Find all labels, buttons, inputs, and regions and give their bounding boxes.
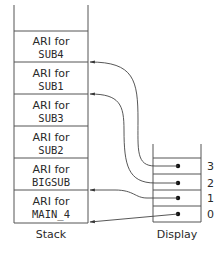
- frame-name: SUB1: [38, 80, 63, 92]
- stack-frame-sub3: ARI for SUB3: [32, 99, 70, 124]
- frame-label: ARI for: [32, 163, 70, 176]
- frame-label: ARI for: [32, 35, 70, 48]
- stack-frame-bigsub: ARI for BIGSUB: [32, 163, 70, 188]
- frame-label: ARI for: [32, 67, 70, 80]
- display-stack-diagram: ARI for SUB4 ARI for SUB1 ARI for SUB3 A…: [0, 0, 223, 257]
- stack-frame-sub1: ARI for SUB1: [32, 67, 70, 92]
- display-entry-3: 3: [176, 160, 214, 173]
- pointer-arrow-0-to-main4: [90, 214, 178, 222]
- frame-name: SUB4: [38, 48, 63, 60]
- display-label: Display: [157, 228, 198, 241]
- display-entry-2: 2: [176, 177, 214, 190]
- stack-label: Stack: [36, 228, 67, 241]
- display: 3 2 1 0 Display: [153, 144, 214, 241]
- stack-frame-sub2: ARI for SUB2: [32, 131, 70, 156]
- pointer-arrow-3-to-sub4: [90, 62, 178, 166]
- display-entry-1: 1: [176, 192, 214, 205]
- pointer-arrow-2-to-sub1: [90, 94, 178, 183]
- display-entry-0: 0: [176, 208, 214, 221]
- frame-label: ARI for: [32, 99, 70, 112]
- frame-name: MAIN_4: [32, 208, 70, 221]
- pointers: [90, 62, 178, 222]
- frame-name: BIGSUB: [32, 176, 70, 188]
- display-index: 1: [207, 192, 214, 205]
- frame-name: SUB3: [38, 112, 63, 124]
- frame-label: ARI for: [32, 195, 70, 208]
- display-index: 2: [207, 177, 214, 190]
- stack-frame-main4: ARI for MAIN_4: [32, 195, 70, 221]
- pointer-arrow-1-to-bigsub: [90, 190, 178, 198]
- stack-frame-sub4: ARI for SUB4: [32, 35, 70, 60]
- display-index: 0: [207, 208, 214, 221]
- frame-name: SUB2: [38, 144, 63, 156]
- display-index: 3: [207, 160, 214, 173]
- frame-label: ARI for: [32, 131, 70, 144]
- stack: ARI for SUB4 ARI for SUB1 ARI for SUB3 A…: [14, 5, 88, 241]
